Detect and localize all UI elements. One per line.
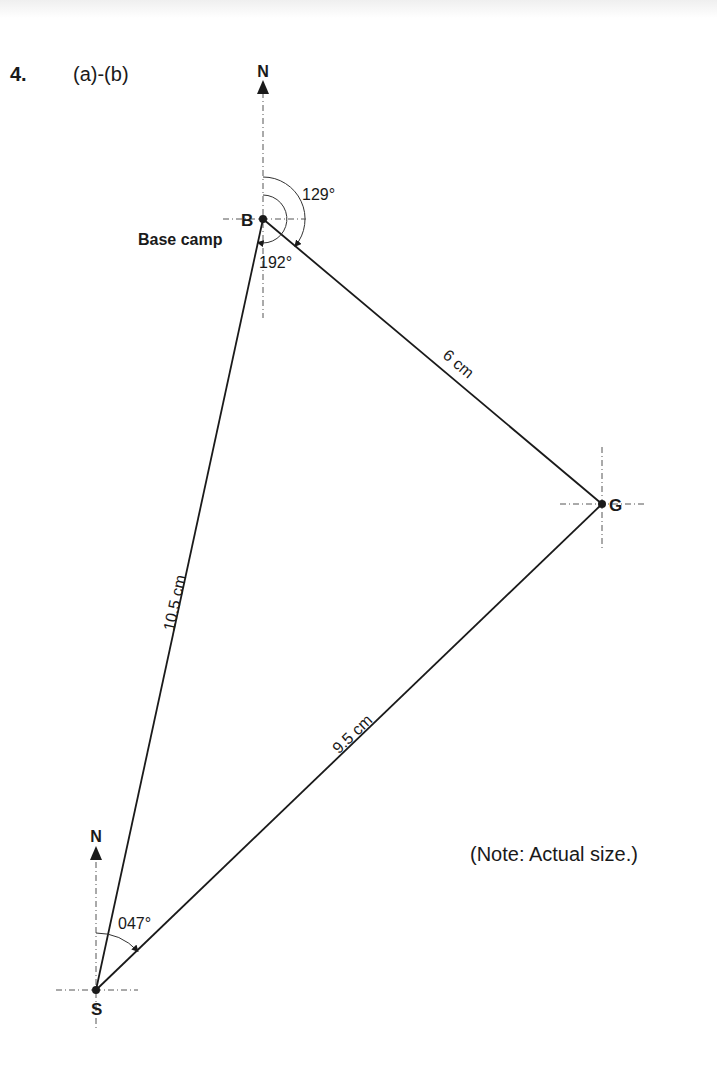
point-b-label: B (241, 211, 253, 230)
bearing-047-label: 047° (118, 915, 151, 932)
s-north-label: N (90, 828, 102, 845)
b-reference-axes (223, 92, 306, 318)
segment-bg (263, 219, 602, 504)
base-camp-label: Base camp (138, 231, 223, 248)
s-north-arrow: N (90, 828, 102, 860)
bearing-192-label: 192° (259, 254, 292, 271)
point-b (259, 215, 267, 223)
segment-sb-label: 10.5 cm (160, 573, 189, 632)
bearing-diagram: N N B Base camp G S 129° 192° 047° 6 (0, 0, 717, 1075)
north-arrow-icon (90, 846, 102, 860)
bearing-129-label: 129° (302, 186, 335, 203)
b-north-label: N (257, 63, 269, 80)
segment-sg-label: 9.5 cm (329, 711, 375, 757)
point-g (598, 500, 606, 508)
point-s-label: S (91, 1000, 102, 1019)
b-north-arrow: N (257, 63, 269, 94)
north-arrow-icon (257, 80, 269, 94)
point-s (92, 986, 100, 994)
arc-047 (96, 933, 138, 951)
segment-bg-label: 6 cm (440, 346, 477, 381)
point-g-label: G (609, 496, 622, 515)
